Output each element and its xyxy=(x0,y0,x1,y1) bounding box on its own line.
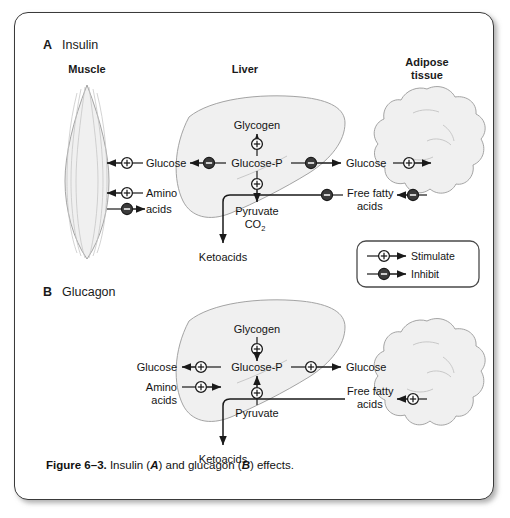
badge-stimulate-a-pyruvate xyxy=(252,179,263,190)
muscle-organ-a xyxy=(65,85,109,259)
caption-emphasis-b: B xyxy=(242,459,250,471)
badge-stimulate-b-adipose-ffa xyxy=(408,394,419,405)
metabolism-diagram: A Insulin Muscle Liver Adipose tissue xyxy=(15,13,495,501)
badge-stimulate-a-amino-in xyxy=(122,188,133,199)
figure-caption: Figure 6–3. Insulin (A) and glucagon (B)… xyxy=(46,458,466,473)
badge-inhibit-a-liver-export xyxy=(305,157,316,168)
node-ffa-line1-b: Free fatty xyxy=(347,385,394,397)
caption-text-3: ) effects. xyxy=(250,459,294,471)
node-muscle-glucose-b: Glucose xyxy=(137,361,177,373)
label-adipose-line2: tissue xyxy=(411,69,443,81)
caption-text-1: Insulin ( xyxy=(107,459,150,471)
label-adipose-line1: Adipose xyxy=(405,56,448,68)
panel-a-letter: A xyxy=(43,38,52,52)
figure-page: A Insulin Muscle Liver Adipose tissue xyxy=(0,0,510,518)
node-glycogen-b: Glycogen xyxy=(234,323,280,335)
node-muscle-glucose-a: Glucose xyxy=(146,157,186,169)
label-liver: Liver xyxy=(232,63,259,75)
badge-inhibit-a-liver-out xyxy=(203,157,214,168)
legend-stimulate-label: Stimulate xyxy=(411,250,455,262)
node-ffa-line2-a: acids xyxy=(357,200,383,212)
node-ffa-line1-a: Free fatty xyxy=(347,187,394,199)
node-glucose-p-b: Glucose-P xyxy=(231,361,282,373)
panel-a-title: Insulin xyxy=(62,38,98,52)
node-glucose-p-a: Glucose-P xyxy=(231,157,282,169)
node-ffa-line2-b: acids xyxy=(357,398,383,410)
panel-b-title: Glucagon xyxy=(62,285,116,299)
node-pyruvate-a: Pyruvate xyxy=(235,205,278,217)
node-amino-line1-a: Amino xyxy=(146,187,177,199)
legend: Stimulate Inhibit xyxy=(357,241,479,287)
adipose-organ-b xyxy=(374,319,485,426)
caption-figure-number: Figure 6–3. xyxy=(46,459,107,471)
caption-emphasis-a: A xyxy=(150,459,158,471)
badge-inhibit-a-ffa xyxy=(321,189,332,200)
node-amino-line2-b: acids xyxy=(151,394,177,406)
caption-text-2: ) and glucagon ( xyxy=(159,459,242,471)
panel-b-letter: B xyxy=(43,285,52,299)
node-amino-line2-a: acids xyxy=(146,203,172,215)
legend-inhibit-label: Inhibit xyxy=(411,268,439,280)
adipose-organ-a xyxy=(374,87,485,194)
node-amino-line1-b: Amino xyxy=(146,381,177,393)
node-ketoacids-a: Ketoacids xyxy=(199,251,248,263)
node-adipose-glucose-a: Glucose xyxy=(346,157,386,169)
badge-stimulate-a-muscle-glucose xyxy=(122,158,133,169)
badge-stimulate-b-glucose-out xyxy=(196,362,207,373)
badge-inhibit-a-amino-out xyxy=(121,203,132,214)
badge-stimulate-a-adipose-glucose xyxy=(404,158,415,169)
figure-frame: A Insulin Muscle Liver Adipose tissue xyxy=(14,12,494,500)
node-co2-a: CO2 xyxy=(245,218,266,233)
badge-stimulate-b-amino xyxy=(196,382,207,393)
badge-stimulate-b-glucose-export xyxy=(306,362,317,373)
badge-inhibit-a-adipose-ffa xyxy=(407,189,418,200)
badge-stimulate-a-glycogen xyxy=(252,139,263,150)
node-adipose-glucose-b: Glucose xyxy=(346,361,386,373)
label-muscle: Muscle xyxy=(68,63,105,75)
node-pyruvate-b: Pyruvate xyxy=(235,407,278,419)
badge-stimulate-b-glycogen xyxy=(252,344,263,355)
badge-stimulate-b-pyruvate xyxy=(252,388,263,399)
node-glycogen-a: Glycogen xyxy=(234,119,280,131)
